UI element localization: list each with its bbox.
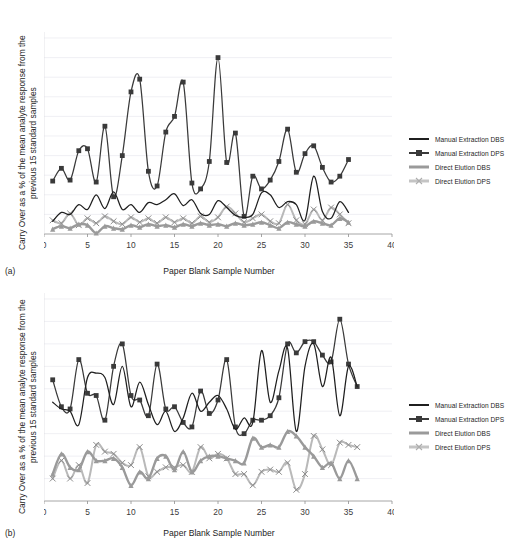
- panel-a-legend: Manual Extraction DBSManual Extraction D…: [408, 132, 504, 188]
- panel-a-plot-area: 00.20.40.60.811.21.41.61.820510152025303…: [44, 32, 394, 254]
- svg-text:10: 10: [126, 507, 136, 517]
- legend-label: Manual Extraction DPS: [435, 416, 504, 423]
- svg-text:5: 5: [85, 507, 90, 517]
- legend-item-3[interactable]: Direct Elution DBS: [408, 426, 504, 440]
- legend-swatch-icon: [408, 134, 430, 144]
- svg-text:40: 40: [387, 507, 394, 517]
- svg-text:25: 25: [257, 240, 267, 250]
- svg-text:15: 15: [170, 240, 180, 250]
- legend-swatch-icon: [408, 400, 430, 410]
- legend-item-2[interactable]: Manual Extraction DPS: [408, 146, 504, 160]
- legend-item-2[interactable]: Manual Extraction DPS: [408, 412, 504, 426]
- legend-swatch-icon: [408, 414, 430, 424]
- svg-text:0: 0: [44, 240, 47, 250]
- svg-text:30: 30: [300, 507, 310, 517]
- panel-b-plot-area: 00.10.20.30.40.50.60.70.80.9051015202530…: [44, 293, 394, 521]
- svg-text:25: 25: [257, 507, 267, 517]
- figure-panel-b: Carry Over as a % of the mean analyte re…: [0, 285, 527, 555]
- legend-label: Manual Extraction DBS: [435, 402, 504, 409]
- legend-label: Manual Extraction DPS: [435, 150, 504, 157]
- svg-text:5: 5: [85, 240, 90, 250]
- svg-text:20: 20: [213, 507, 223, 517]
- legend-label: Direct Elution DPS: [435, 178, 491, 185]
- legend-label: Direct Elution DPS: [435, 444, 491, 451]
- legend-item-3[interactable]: Direct Elution DBS: [408, 160, 504, 174]
- svg-text:10: 10: [126, 240, 136, 250]
- panel-a-y-axis-title: Carry Over as a % of the mean analyte re…: [17, 32, 41, 254]
- svg-text:20: 20: [213, 240, 223, 250]
- legend-swatch-icon: [408, 428, 430, 438]
- legend-label: Direct Elution DBS: [435, 430, 491, 437]
- legend-item-4[interactable]: Direct Elution DPS: [408, 174, 504, 188]
- legend-label: Direct Elution DBS: [435, 164, 491, 171]
- svg-text:40: 40: [387, 240, 394, 250]
- legend-item-4[interactable]: Direct Elution DPS: [408, 440, 504, 454]
- legend-swatch-icon: [408, 148, 430, 158]
- panel-a-x-axis-title: Paper Blank Sample Number: [44, 266, 394, 276]
- panel-b-y-axis-title: Carry Over as a % of the mean analyte re…: [17, 293, 41, 521]
- svg-text:15: 15: [170, 507, 180, 517]
- panel-b-chart: 00.10.20.30.40.50.60.70.80.9051015202530…: [44, 293, 394, 521]
- svg-text:30: 30: [300, 240, 310, 250]
- legend-label: Manual Extraction DBS: [435, 136, 504, 143]
- running-head: [0, 0, 527, 8]
- panel-b-x-axis-title: Paper Blank Sample Number: [44, 528, 394, 538]
- legend-swatch-icon: [408, 176, 430, 186]
- panel-b-legend: Manual Extraction DBSManual Extraction D…: [408, 398, 504, 454]
- legend-item-1[interactable]: Manual Extraction DBS: [408, 132, 504, 146]
- svg-text:35: 35: [344, 507, 354, 517]
- panel-a-label: (a): [5, 266, 15, 276]
- svg-text:0: 0: [44, 507, 47, 517]
- legend-swatch-icon: [408, 162, 430, 172]
- panel-b-label: (b): [5, 528, 15, 538]
- svg-text:35: 35: [344, 240, 354, 250]
- panel-a-chart: 00.20.40.60.811.21.41.61.820510152025303…: [44, 32, 394, 254]
- figure-panel-a: Carry Over as a % of the mean analyte re…: [0, 14, 527, 286]
- legend-swatch-icon: [408, 442, 430, 452]
- legend-item-1[interactable]: Manual Extraction DBS: [408, 398, 504, 412]
